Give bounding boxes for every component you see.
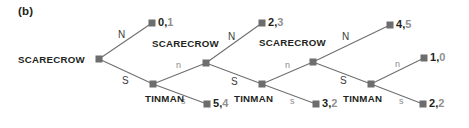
player-label-scarecrow: SCARECROW: [259, 38, 326, 48]
terminal-node-t0[interactable]: [149, 20, 156, 27]
payoff-player2: 2: [331, 97, 337, 109]
edge-label-S: S: [122, 76, 129, 86]
payoff-t5: 1,0: [430, 52, 445, 63]
payoff-t0: 0,1: [158, 17, 173, 28]
payoff-player2: 0: [439, 51, 445, 63]
decision-node-n0[interactable]: [96, 56, 103, 63]
player-label-scarecrow: SCARECROW: [152, 39, 219, 49]
edge-label-N: N: [342, 32, 349, 42]
decision-node-n1[interactable]: [150, 81, 157, 88]
player-label-tinman: TINMAN: [234, 94, 273, 104]
payoff-player2: 1: [167, 16, 173, 28]
terminal-node-t3[interactable]: [313, 101, 320, 108]
edge-layer: [99, 23, 424, 104]
edge-label-S: S: [231, 77, 238, 87]
edge-label-n: n: [285, 61, 290, 70]
payoff-t6: 2,2: [429, 98, 444, 109]
edge-label-s: s: [290, 97, 295, 106]
payoff-t1: 5,4: [213, 98, 228, 109]
edge-label-N: N: [118, 30, 125, 40]
terminal-node-t2[interactable]: [259, 20, 266, 27]
decision-node-n3[interactable]: [259, 81, 266, 88]
player-label-scarecrow: SCARECROW: [18, 55, 85, 65]
tree-edge: [99, 23, 152, 59]
figure-panel: (b) NSnsNSnsNSns0,15,42,33,24,51,02,2SCA…: [0, 0, 469, 128]
payoff-t2: 2,3: [268, 17, 283, 28]
payoff-player2: 5: [405, 18, 411, 30]
terminal-node-t1[interactable]: [204, 101, 211, 108]
decision-node-n4[interactable]: [310, 59, 317, 66]
payoff-t4: 4,5: [396, 19, 411, 30]
player-label-tinman: TINMAN: [145, 94, 184, 104]
terminal-node-t6[interactable]: [420, 101, 427, 108]
edge-label-S: S: [340, 76, 347, 86]
edge-label-n: n: [176, 61, 181, 70]
decision-node-n5[interactable]: [368, 81, 375, 88]
terminal-node-t5[interactable]: [421, 55, 428, 62]
edge-label-n: n: [395, 60, 400, 69]
payoff-player2: 3: [277, 16, 283, 28]
edge-label-N: N: [228, 32, 235, 42]
player-label-tinman: TINMAN: [343, 94, 382, 104]
edge-label-s: s: [399, 97, 404, 106]
payoff-player2: 2: [438, 97, 444, 109]
decision-node-n2[interactable]: [203, 60, 210, 67]
payoff-t3: 3,2: [322, 98, 337, 109]
terminal-node-t4[interactable]: [387, 22, 394, 29]
payoff-player2: 4: [222, 97, 228, 109]
